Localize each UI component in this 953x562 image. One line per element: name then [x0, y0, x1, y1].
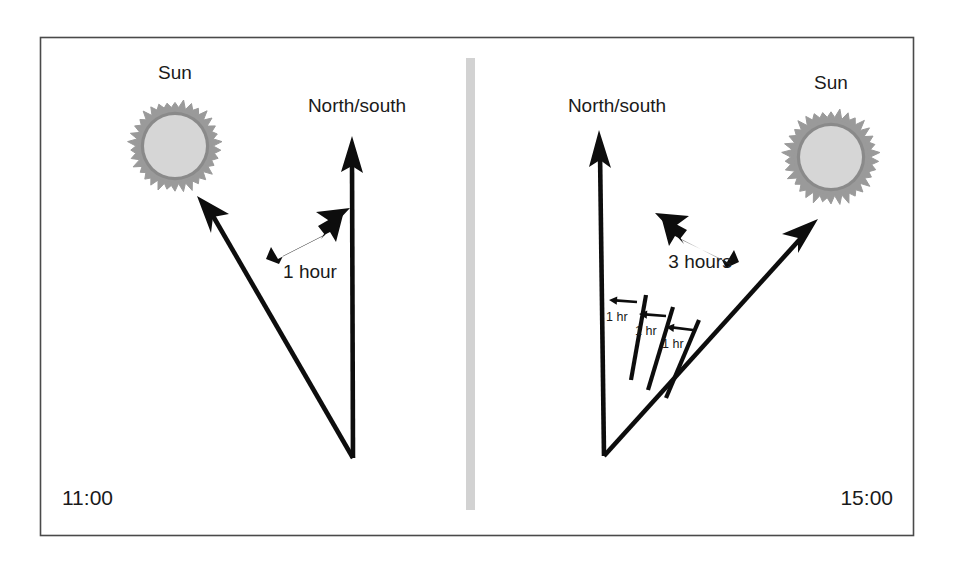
sun-label: Sun	[158, 62, 192, 83]
north-south-label: North/south	[308, 95, 406, 116]
north-south-label: North/south	[568, 95, 666, 116]
sun-compass-diagram: Sun North/south 1 hour 11:00	[0, 0, 953, 562]
hour-tick-label: 1 hr	[662, 337, 684, 351]
time-label: 15:00	[840, 486, 893, 509]
time-label: 11:00	[62, 486, 113, 509]
hour-tick-arrow-shaft	[615, 300, 637, 302]
panel-divider	[466, 58, 475, 510]
sun-disc	[800, 126, 862, 188]
hour-tick-arrow-shaft	[645, 314, 666, 316]
hour-tick-label: 1 hr	[606, 310, 628, 324]
duration-label: 3 hours	[668, 251, 731, 272]
duration-label: 1 hour	[283, 261, 338, 282]
hour-tick-label: 1 hr	[635, 324, 657, 338]
sun-label: Sun	[814, 72, 848, 93]
sun-disc	[144, 115, 206, 177]
figure-root: Sun North/south 1 hour 11:00	[0, 0, 953, 562]
